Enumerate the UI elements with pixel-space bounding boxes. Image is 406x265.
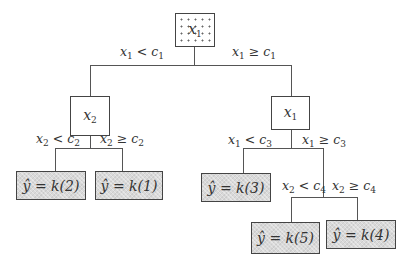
leaf-k5: ŷ = k(5): [251, 222, 320, 254]
connector: [357, 197, 358, 220]
edge-label-x1-ge-c3: x1 ≥ c3: [302, 134, 346, 149]
connector: [90, 136, 91, 148]
connector: [291, 65, 292, 96]
leaf-k4-label: ŷ = k(4): [333, 227, 390, 243]
leaf-k5-label: ŷ = k(5): [257, 230, 314, 246]
leaf-k2-label: ŷ = k(2): [23, 178, 80, 194]
leaf-k4: ŷ = k(4): [326, 220, 396, 249]
connector: [243, 148, 244, 173]
connector: [122, 148, 123, 171]
leaf-k2: ŷ = k(2): [16, 171, 86, 200]
connector: [291, 130, 292, 148]
connector: [194, 47, 195, 66]
edge-label-x1-ge-c1: x1 ≥ c1: [232, 46, 276, 61]
node-x2: x2: [70, 96, 110, 136]
edge-label-x2-lt-c2: x2 < c2: [36, 133, 80, 148]
leaf-k1-label: ŷ = k(1): [101, 178, 158, 194]
edge-label-x1-lt-c1: x1 < c1: [120, 46, 164, 61]
connector: [55, 148, 123, 149]
root-node-x1: x1: [175, 13, 215, 47]
node-x2-label: x2: [83, 107, 97, 125]
connector: [291, 197, 358, 198]
edge-label-x2-ge-c4: x2 ≥ c4: [332, 180, 376, 195]
edge-label-x2-lt-c4: x2 < c4: [282, 180, 326, 195]
edge-label-x1-lt-c3: x1 < c3: [228, 134, 272, 149]
node-x1-right-label: x1: [284, 104, 298, 122]
connector: [55, 148, 56, 171]
leaf-k1: ŷ = k(1): [95, 171, 163, 200]
leaf-k3-label: ŷ = k(3): [208, 180, 265, 196]
connector: [291, 197, 292, 222]
edge-label-x2-ge-c2: x2 ≥ c2: [100, 133, 144, 148]
connector: [90, 65, 292, 66]
root-node-label: x1: [188, 21, 202, 39]
node-x1-right: x1: [271, 96, 310, 130]
leaf-k3: ŷ = k(3): [201, 173, 271, 202]
connector: [90, 65, 91, 96]
